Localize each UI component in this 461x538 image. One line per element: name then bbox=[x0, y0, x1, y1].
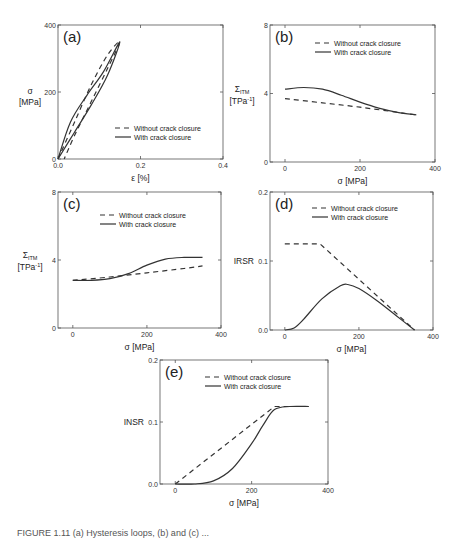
legend: Without crack closureWith crack closure bbox=[312, 205, 398, 221]
x-tick-label: 0 bbox=[173, 487, 177, 494]
y-axis-unit: [TPa-1] bbox=[17, 262, 42, 272]
series-with-closure bbox=[175, 406, 309, 484]
y-tick-label: 0.1 bbox=[148, 419, 158, 426]
chart-panel-a: 0.00.20.40200400ε [%]σ[MPa](a)Without cr… bbox=[19, 22, 228, 184]
y-tick-label: 0.2 bbox=[148, 357, 158, 364]
series-without-closure bbox=[73, 266, 203, 281]
legend-label-with: With crack closure bbox=[119, 221, 176, 228]
legend: Without crack closureWith crack closure bbox=[205, 374, 291, 390]
x-tick-label: 0.2 bbox=[136, 162, 146, 169]
y-tick-label: 4 bbox=[264, 90, 268, 97]
y-axis-label: INSR bbox=[124, 417, 144, 427]
y-axis-unit: [MPa] bbox=[19, 97, 41, 107]
x-tick-label: 0 bbox=[71, 331, 75, 338]
y-tick-label: 0 bbox=[264, 159, 268, 166]
y-axis-label: ΣITM bbox=[235, 84, 250, 95]
legend-label-without: Without crack closure bbox=[334, 40, 401, 47]
y-tick-label: 200 bbox=[44, 89, 56, 96]
y-tick-label: 8 bbox=[264, 22, 268, 29]
x-tick-label: 0.0 bbox=[53, 162, 63, 169]
chart-panel-b: 0200400048σ [MPa]ΣITM[TPa-1](b)Without c… bbox=[229, 22, 441, 187]
x-tick-label: 0 bbox=[283, 333, 287, 340]
y-tick-label: 0 bbox=[52, 156, 56, 163]
x-axis-label: σ [MPa] bbox=[338, 176, 368, 186]
y-tick-label: 8 bbox=[52, 189, 56, 196]
x-tick-label: 200 bbox=[353, 333, 365, 340]
chart-panel-e: 02004000.00.10.2σ [MPa]INSR(e)Without cr… bbox=[124, 357, 334, 509]
x-tick-label: 200 bbox=[354, 165, 366, 172]
x-axis-label: σ [MPa] bbox=[337, 344, 367, 354]
figure-caption: FIGURE 1.11 (a) Hysteresis loops, (b) an… bbox=[17, 528, 209, 538]
y-tick-label: 400 bbox=[44, 22, 56, 29]
x-tick-label: 400 bbox=[427, 333, 439, 340]
legend: Without crack closureWith crack closure bbox=[100, 212, 186, 228]
legend-label-with: With crack closure bbox=[134, 134, 191, 141]
panel-label: (d) bbox=[275, 195, 293, 212]
panel-label: (a) bbox=[63, 28, 81, 45]
y-axis-label: IRSR bbox=[234, 256, 254, 266]
y-tick-label: 0.0 bbox=[148, 481, 158, 488]
x-axis-label: ε [%] bbox=[131, 173, 149, 183]
y-tick-label: 0.1 bbox=[258, 258, 268, 265]
panel-label: (c) bbox=[63, 195, 81, 212]
panel-label: (e) bbox=[165, 363, 183, 380]
x-tick-label: 0.4 bbox=[218, 162, 228, 169]
y-tick-label: 4 bbox=[52, 257, 56, 264]
y-tick-label: 0.2 bbox=[258, 189, 268, 196]
series-without-closure bbox=[285, 244, 415, 330]
legend-label-without: Without crack closure bbox=[119, 212, 186, 219]
y-axis-label: ΣITM bbox=[23, 250, 38, 261]
legend-label-without: Without crack closure bbox=[224, 374, 291, 381]
x-tick-label: 400 bbox=[429, 165, 441, 172]
legend-label-without: Without crack closure bbox=[331, 205, 398, 212]
chart-panel-d: 02004000.00.10.2σ [MPa]IRSR(d)Without cr… bbox=[234, 189, 439, 355]
legend-label-without: Without crack closure bbox=[134, 125, 201, 132]
series-with-closure bbox=[58, 42, 120, 159]
legend-label-with: With crack closure bbox=[334, 49, 391, 56]
x-axis-label: σ [MPa] bbox=[229, 498, 259, 508]
x-tick-label: 200 bbox=[141, 331, 153, 338]
series-with-closure bbox=[285, 284, 415, 330]
legend-label-with: With crack closure bbox=[331, 214, 388, 221]
legend: Without crack closureWith crack closure bbox=[115, 125, 201, 141]
y-axis-label: σ bbox=[27, 86, 33, 96]
panel-label: (b) bbox=[275, 28, 293, 45]
x-tick-label: 400 bbox=[322, 487, 334, 494]
y-tick-label: 0.0 bbox=[258, 327, 268, 334]
x-tick-label: 400 bbox=[215, 331, 227, 338]
y-tick-label: 0 bbox=[52, 325, 56, 332]
x-axis-label: σ [MPa] bbox=[125, 342, 155, 352]
x-tick-label: 200 bbox=[246, 487, 258, 494]
y-axis-unit: [TPa-1] bbox=[229, 96, 254, 106]
legend-label-with: With crack closure bbox=[224, 383, 281, 390]
x-tick-label: 0 bbox=[283, 165, 287, 172]
series-without-closure bbox=[175, 407, 309, 485]
chart-panel-c: 0200400048σ [MPa]ΣITM[TPa-1](c)Without c… bbox=[17, 189, 227, 353]
legend: Without crack closureWith crack closure bbox=[315, 40, 401, 56]
